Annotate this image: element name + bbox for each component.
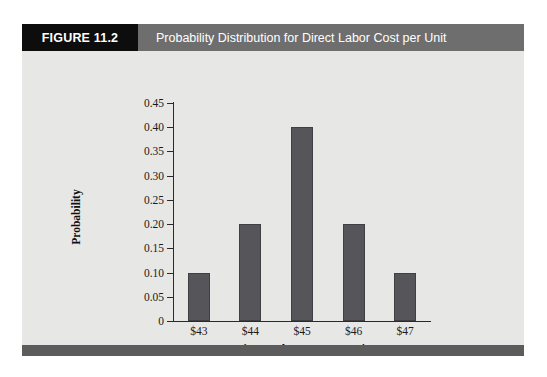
y-axis-tick-label: 0.40: [124, 121, 164, 133]
figure-number-label: FIGURE 11.2: [42, 31, 119, 45]
y-axis-tick: [167, 321, 173, 322]
y-axis-tick-label: 0.05: [124, 291, 164, 303]
figure-title-bar: Probability Distribution for Direct Labo…: [138, 24, 524, 51]
bar: [291, 127, 313, 321]
y-axis-tick-label: 0.45: [124, 97, 164, 109]
y-axis-tick: [167, 151, 173, 152]
figure-body: 00.050.100.150.200.250.300.350.400.45 $4…: [22, 51, 524, 345]
bar: [239, 224, 261, 321]
y-axis-line: [173, 102, 174, 322]
y-axis-tick-label: 0.20: [124, 218, 164, 230]
y-axis-tick-label: 0.35: [124, 145, 164, 157]
bar-chart: 00.050.100.150.200.250.300.350.400.45 $4…: [22, 51, 524, 345]
figure-title-label: Probability Distribution for Direct Labo…: [156, 31, 446, 45]
figure-number-badge: FIGURE 11.2: [22, 24, 138, 51]
y-axis-tick-label: 0.15: [124, 242, 164, 254]
y-axis-tick: [167, 273, 173, 274]
bar: [188, 273, 210, 321]
figure-footer-bar: [22, 345, 524, 356]
y-axis-tick-label: 0.30: [124, 170, 164, 182]
bar: [343, 224, 365, 321]
y-axis-tick: [167, 224, 173, 225]
figure-header: FIGURE 11.2 Probability Distribution for…: [22, 24, 524, 51]
y-axis-tick: [167, 127, 173, 128]
y-axis-tick-label: 0.25: [124, 194, 164, 206]
y-axis-tick: [167, 200, 173, 201]
y-axis-tick-label: 0.10: [124, 267, 164, 279]
y-axis-title: Probability: [70, 189, 82, 244]
y-axis-tick-label: 0: [124, 315, 164, 327]
y-axis-tick: [167, 248, 173, 249]
x-axis-tick-label: $47: [375, 325, 435, 337]
figure-panel: FIGURE 11.2 Probability Distribution for…: [22, 24, 524, 356]
y-axis-tick: [167, 103, 173, 104]
y-axis-tick: [167, 176, 173, 177]
y-axis-tick: [167, 297, 173, 298]
x-axis-line: [173, 321, 431, 322]
bar: [394, 273, 416, 321]
